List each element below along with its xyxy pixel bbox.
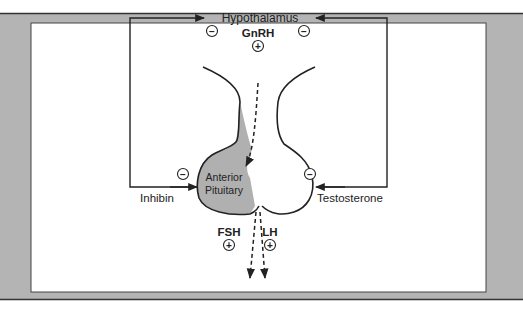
svg-text:−: −: [180, 169, 186, 180]
inhibin-hypothalamus-negative-sign: −: [207, 26, 218, 37]
diagram-panel: [31, 23, 486, 292]
hpg-axis-diagram: Hypothalamus GnRH Anterior Pituitary Inh…: [0, 0, 523, 314]
svg-text:−: −: [307, 169, 313, 180]
inhibin-label: Inhibin: [140, 192, 174, 204]
inhibin-pituitary-negative-sign: −: [178, 169, 189, 180]
svg-text:+: +: [226, 240, 232, 251]
svg-text:−: −: [301, 26, 307, 37]
pituitary-label: Pituitary: [205, 184, 244, 196]
svg-text:+: +: [255, 41, 261, 52]
gnrh-label: GnRH: [242, 27, 275, 39]
lh-positive-sign: +: [265, 240, 276, 251]
fsh-label: FSH: [218, 226, 241, 238]
svg-text:+: +: [267, 240, 273, 251]
hypothalamus-label: Hypothalamus: [222, 11, 299, 25]
fsh-positive-sign: +: [224, 240, 235, 251]
svg-text:−: −: [209, 26, 215, 37]
testosterone-label: Testosterone: [317, 192, 383, 204]
anterior-label: Anterior: [206, 171, 243, 183]
testosterone-hypothalamus-negative-sign: −: [299, 26, 310, 37]
testosterone-pituitary-negative-sign: −: [305, 169, 316, 180]
lh-label: LH: [262, 226, 277, 238]
gnrh-positive-sign: +: [253, 41, 264, 52]
